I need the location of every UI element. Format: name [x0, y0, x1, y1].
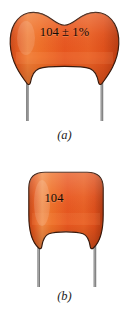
caption-b: (b) [0, 289, 129, 304]
capacitor-a-illustration [0, 0, 129, 125]
body-striation [32, 213, 100, 225]
capacitor-b-illustration [0, 155, 129, 287]
figure-panel-b: 104 (b) [0, 155, 129, 317]
capacitor-b-stage: 104 [0, 155, 129, 287]
body-striation [16, 52, 113, 64]
capacitor-b-marking: 104 [29, 191, 79, 206]
capacitor-a-stage: 104 ± 1% [0, 0, 129, 125]
capacitor-a-marking: 104 ± 1% [0, 25, 129, 40]
caption-a: (a) [0, 128, 129, 143]
capacitor-a-body [10, 12, 119, 84]
figure-panel-a: 104 ± 1% (a) [0, 0, 129, 155]
capacitor-b-body [29, 172, 103, 248]
